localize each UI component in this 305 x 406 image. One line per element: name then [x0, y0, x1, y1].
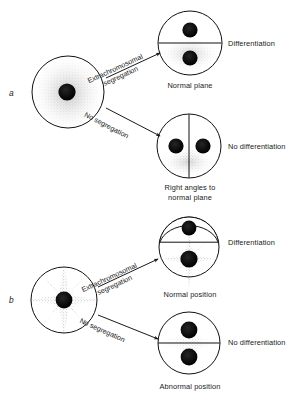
daughter-cell-a-right-angles	[156, 114, 224, 180]
panel-letter-b: b	[9, 295, 14, 305]
panel-letter-a: a	[9, 88, 14, 98]
nucleus	[182, 22, 197, 37]
nucleus	[180, 250, 197, 267]
nucleus	[168, 138, 183, 153]
nucleus	[181, 349, 198, 366]
nucleus	[58, 83, 75, 100]
caption-right-angles-line2: normal plane	[168, 193, 212, 202]
daughter-cell-b-abnormal-position	[156, 312, 222, 374]
outcome-differentiation-a: Differentiation	[228, 39, 275, 48]
outcome-differentiation-b: Differentiation	[228, 238, 275, 247]
caption-normal-plane: Normal plane	[167, 81, 212, 90]
nucleus	[195, 138, 210, 153]
daughter-cell-a-normal-plane	[156, 11, 224, 78]
outcome-no-differentiation-b: No differentiation	[228, 338, 286, 347]
daughter-cell-b-normal-position	[158, 217, 220, 290]
caption-abnormal-position: Abnormal position	[160, 382, 221, 391]
caption-normal-position: Normal position	[164, 290, 217, 299]
figure-canvas: a b Extrachromosomal segregation No segr…	[0, 0, 305, 406]
nucleus	[56, 292, 73, 309]
caption-right-angles-line1: Right angles to	[165, 183, 216, 192]
nucleus	[182, 221, 197, 236]
nucleus	[182, 50, 197, 65]
outcome-no-differentiation-a: No differentiation	[228, 142, 286, 151]
nucleus	[181, 322, 198, 339]
